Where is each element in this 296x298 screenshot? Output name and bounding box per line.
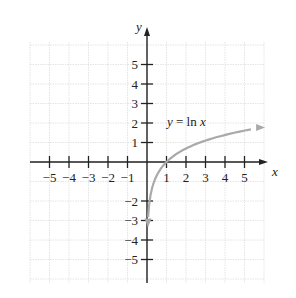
y-tick-label: 3: [132, 96, 139, 111]
y-tick-label: −5: [124, 252, 138, 267]
y-tick-label: 4: [132, 77, 139, 92]
y-tick-label: 5: [132, 57, 139, 72]
x-tick-label: 4: [222, 170, 229, 185]
x-tick-label: 3: [202, 170, 209, 185]
x-tick-label: −3: [82, 170, 96, 185]
x-tick-label: 1: [163, 170, 170, 185]
x-tick-label: −2: [101, 170, 115, 185]
curve-arrow-down-icon: [144, 218, 151, 227]
y-axis-arrow-icon: [144, 27, 150, 36]
x-tick-label: −1: [121, 170, 135, 185]
y-tick-label: −2: [124, 194, 138, 209]
ln-graph: −5−4−3−2−11234554321−2−3−4−5xyy = ln x: [0, 0, 296, 298]
x-axis-label: x: [271, 164, 278, 179]
x-tick-label: 5: [241, 170, 248, 185]
x-tick-label: −4: [62, 170, 76, 185]
x-tick-label: −5: [43, 170, 57, 185]
x-axis-arrow-icon: [259, 159, 268, 165]
y-axis-label: y: [134, 19, 142, 34]
function-label: y = ln x: [165, 114, 206, 129]
y-tick-label: 1: [132, 135, 139, 150]
y-tick-label: −3: [124, 213, 138, 228]
x-tick-label: 2: [183, 170, 190, 185]
y-tick-label: 2: [132, 116, 139, 131]
y-tick-label: −4: [124, 233, 138, 248]
